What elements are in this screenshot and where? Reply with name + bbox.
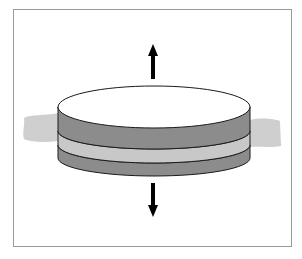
arrow-down-icon [148,183,158,217]
disk-diagram [0,0,302,259]
arrow-up-icon [148,44,158,79]
top-disk-face [58,86,250,128]
